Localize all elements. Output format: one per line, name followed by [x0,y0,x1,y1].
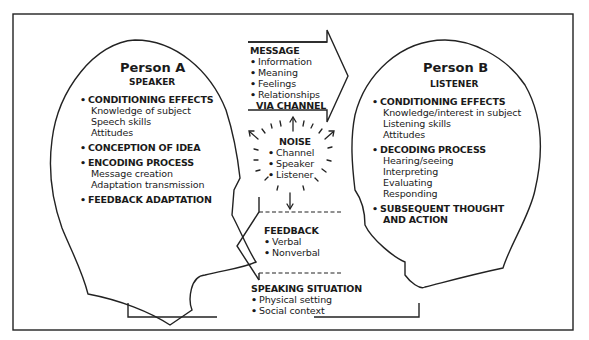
person-a-section-item: Knowledge of subject [80,105,213,116]
person-b-section-item: Interpreting [372,166,521,177]
person-b-role: LISTENER [430,80,478,89]
person-b-title: Person B [423,61,488,74]
message-heading: MESSAGE [250,45,326,56]
person-a-section-heading: FEEDBACK ADAPTATION [80,194,213,205]
person-a-title: Person A [120,61,185,74]
message-item: Meaning [250,67,326,78]
person-a-section-heading: ENCODING PROCESS [80,157,213,168]
noise-item: Listener [268,169,314,180]
person-a-sections: CONDITIONING EFFECTS Knowledge of subjec… [80,94,213,205]
person-b-section-item: Evaluating [372,177,521,188]
noise-heading: NOISE [268,136,314,147]
person-a-section-item: Attitudes [80,127,213,138]
message-channel-label: VIA CHANNEL [250,100,326,111]
person-b-section-heading: SUBSEQUENT THOUGHT [372,203,521,214]
person-b-section-heading: DECODING PROCESS [372,144,521,155]
feedback-heading: FEEDBACK [264,225,320,236]
noise-item: Speaker [268,158,314,169]
person-b-section-item: Hearing/seeing [372,155,521,166]
person-a-section-item: Message creation [80,168,213,179]
speaking-situation-item: Physical setting [251,294,362,305]
feedback-item: Verbal [264,236,320,247]
speaking-situation-item: Social context [251,305,362,316]
feedback-block: FEEDBACK Verbal Nonverbal [264,225,320,258]
speaking-situation-block: SPEAKING SITUATION Physical setting Soci… [251,283,362,316]
person-b-section-heading-cont: AND ACTION [372,214,521,225]
person-b-section-item: Responding [372,188,521,199]
person-a-section-item: Adaptation transmission [80,179,213,190]
person-b-section-item: Listening skills [372,118,521,129]
message-item: Relationships [250,89,326,100]
message-block: MESSAGE Information Meaning Feelings Rel… [250,45,326,111]
message-item: Feelings [250,78,326,89]
noise-item: Channel [268,147,314,158]
person-b-section-item: Knowledge/interest in subject [372,107,521,118]
person-b-section-heading: CONDITIONING EFFECTS [372,96,521,107]
person-a-role: SPEAKER [129,78,175,87]
feedback-item: Nonverbal [264,247,320,258]
person-b-section-item: Attitudes [372,129,521,140]
person-b-sections: CONDITIONING EFFECTS Knowledge/interest … [372,96,521,225]
person-a-section-heading: CONDITIONING EFFECTS [80,94,213,105]
person-a-section-item: Speech skills [80,116,213,127]
person-a-section-heading: CONCEPTION OF IDEA [80,142,213,153]
speaking-situation-heading: SPEAKING SITUATION [251,283,362,294]
message-item: Information [250,56,326,67]
noise-block: NOISE Channel Speaker Listener [268,136,314,180]
